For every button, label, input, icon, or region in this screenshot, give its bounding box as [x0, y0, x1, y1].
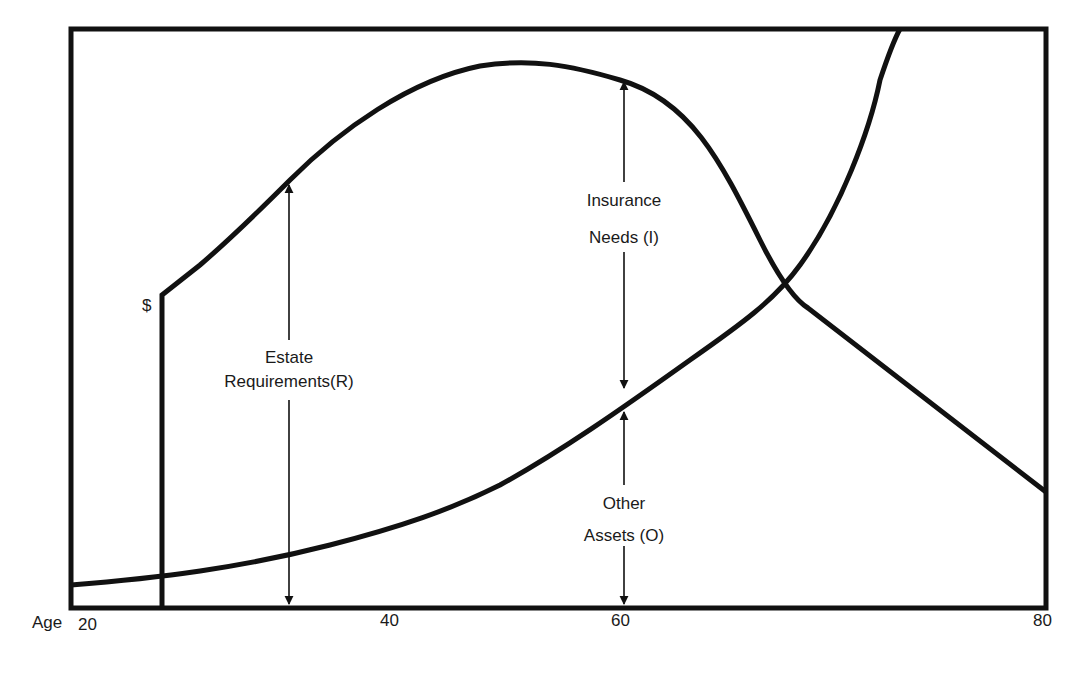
x-tick-60: 60 [611, 611, 630, 631]
x-tick-20: 20 [78, 615, 97, 635]
estate-label-line2: Requirements(R) [209, 372, 369, 392]
x-tick-40: 40 [380, 611, 399, 631]
insurance-label-line2: Needs (I) [562, 228, 686, 248]
other-assets-curve [71, 29, 900, 585]
plot-frame [71, 29, 1046, 608]
diagram-canvas [0, 0, 1090, 683]
other-label-line2: Assets (O) [562, 526, 686, 546]
y-axis-dollar-label: $ [142, 296, 151, 316]
x-tick-80: 80 [1033, 611, 1052, 631]
estate-label-line1: Estate [239, 348, 339, 368]
x-axis-title: Age [32, 613, 62, 633]
insurance-label-line1: Insurance [562, 191, 686, 211]
other-label-line1: Other [562, 494, 686, 514]
